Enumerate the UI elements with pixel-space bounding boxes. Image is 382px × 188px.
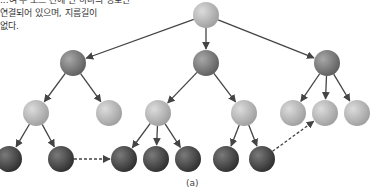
- tree-node-a2: [96, 100, 122, 126]
- tree-node-c1: [280, 100, 306, 126]
- tree-edge: [165, 124, 180, 147]
- tree-edge: [326, 76, 327, 99]
- tree-edge: [231, 125, 239, 146]
- tree-edge: [214, 73, 236, 102]
- tree-node-b1: [145, 100, 171, 126]
- tree-node-a1: [23, 100, 49, 126]
- tree-edge: [249, 125, 257, 146]
- figure-label: (a): [186, 178, 199, 188]
- tree-node-c3: [344, 100, 370, 126]
- tree-node-b13: [175, 146, 201, 172]
- tree-edge: [81, 74, 101, 102]
- tree-node-root: [193, 2, 219, 28]
- tree-edge: [334, 74, 350, 101]
- tree-node-b2: [231, 100, 257, 126]
- tree-node-b22: [249, 146, 275, 172]
- tree-edge: [132, 123, 150, 147]
- tree-edge: [16, 124, 29, 147]
- tree-node-a11: [0, 146, 22, 172]
- tree-edge: [168, 72, 197, 103]
- tree-node-b12: [143, 146, 169, 172]
- tree-node-b21: [213, 146, 239, 172]
- tree-node-b11: [111, 146, 137, 172]
- tree-node-a12: [48, 146, 74, 172]
- tree-edge: [218, 20, 314, 58]
- tree-diagram: [0, 0, 382, 188]
- tree-edge: [44, 73, 65, 101]
- tree-node-c: [314, 50, 340, 76]
- tree-edge: [157, 126, 158, 145]
- tree-edge: [301, 74, 320, 102]
- tree-node-b: [193, 50, 219, 76]
- tree-edge: [86, 19, 194, 58]
- tree-node-c2: [312, 100, 338, 126]
- tree-edge: [42, 124, 54, 146]
- tree-node-a: [60, 50, 86, 76]
